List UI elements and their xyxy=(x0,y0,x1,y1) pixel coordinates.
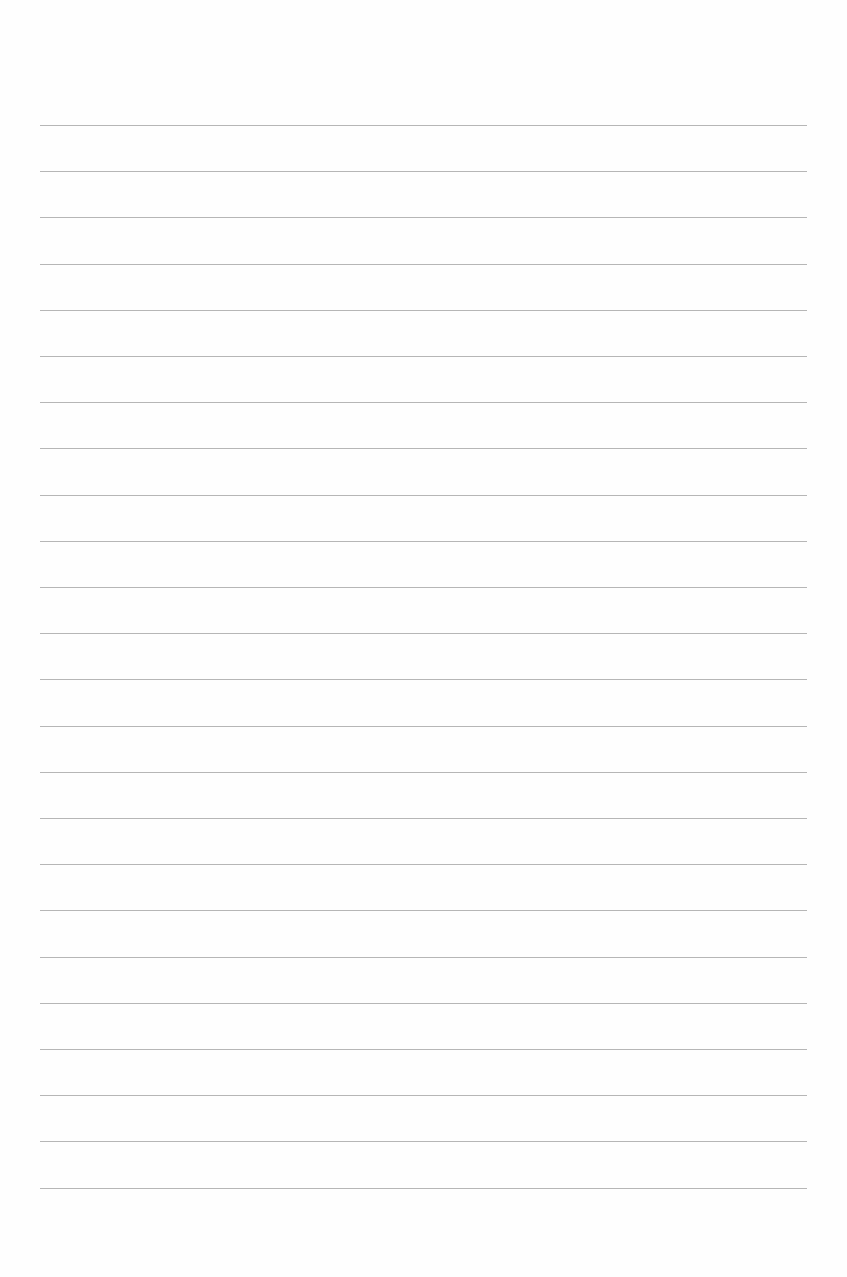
ruled-line xyxy=(40,310,807,311)
ruled-line xyxy=(40,264,807,265)
ruled-line xyxy=(40,957,807,958)
ruled-line xyxy=(40,541,807,542)
ruled-line xyxy=(40,726,807,727)
ruled-line xyxy=(40,1003,807,1004)
ruled-line xyxy=(40,910,807,911)
lined-paper-sheet xyxy=(0,0,847,1277)
ruled-line xyxy=(40,679,807,680)
ruled-line xyxy=(40,633,807,634)
ruled-line xyxy=(40,587,807,588)
ruled-line xyxy=(40,1188,807,1189)
ruled-line xyxy=(40,402,807,403)
ruled-line xyxy=(40,864,807,865)
ruled-line xyxy=(40,818,807,819)
ruled-line xyxy=(40,125,807,126)
ruled-line xyxy=(40,356,807,357)
ruled-line xyxy=(40,1049,807,1050)
ruled-line xyxy=(40,448,807,449)
ruled-line xyxy=(40,495,807,496)
ruled-line xyxy=(40,772,807,773)
ruled-line xyxy=(40,1141,807,1142)
ruled-line xyxy=(40,1095,807,1096)
ruled-line xyxy=(40,171,807,172)
ruled-line xyxy=(40,217,807,218)
